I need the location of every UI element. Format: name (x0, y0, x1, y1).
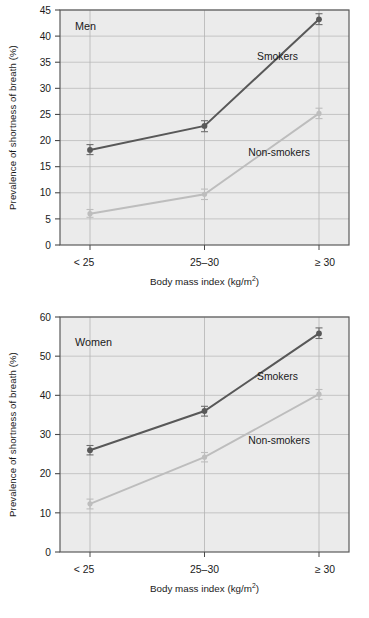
y-tick-label: 10 (40, 508, 52, 519)
y-tick-label: 10 (40, 187, 52, 198)
y-tick-label: 50 (40, 351, 52, 362)
series-annotation-smokers: Smokers (257, 371, 298, 382)
y-tick-label: 45 (40, 5, 52, 16)
x-axis-ticks (90, 552, 319, 557)
y-tick-label: 25 (40, 109, 52, 120)
x-axis-title-main: Body mass index (kg/m (150, 276, 252, 287)
x-axis-title-tail: ) (256, 276, 259, 287)
x-axis-title: Body mass index (kg/m2) (150, 275, 259, 287)
chart-panel-men: 0 5 10 15 20 25 30 35 40 45 Prevalence o… (0, 0, 369, 305)
x-category-label: 25–30 (190, 257, 219, 268)
y-axis-ticks (55, 10, 60, 245)
y-tick-label: 40 (40, 390, 52, 401)
x-axis-title: Body mass index (kg/m2) (150, 582, 259, 594)
x-category-label: < 25 (74, 564, 95, 575)
series-annotation-non-smokers: Non-smokers (248, 147, 310, 158)
chart-panel-women: 0 10 20 30 40 50 60 Prevalence of shortn… (0, 305, 369, 618)
x-category-label: ≥ 30 (315, 564, 335, 575)
x-axis-category-labels: < 25 25–30 ≥ 30 (74, 257, 336, 268)
y-axis-title: Prevalence of shortness of breath (%) (7, 352, 18, 517)
x-category-label: 25–30 (190, 564, 219, 575)
x-category-label: ≥ 30 (315, 257, 335, 268)
y-tick-label: 40 (40, 31, 52, 42)
series-annotation-smokers: Smokers (257, 51, 298, 62)
y-tick-label: 0 (45, 547, 51, 558)
y-axis-tick-labels: 0 5 10 15 20 25 30 35 40 45 (40, 5, 52, 251)
y-tick-label: 20 (40, 135, 52, 146)
x-axis-title-tail: ) (256, 583, 259, 594)
x-axis-title-main: Body mass index (kg/m (150, 583, 252, 594)
y-tick-label: 0 (45, 240, 51, 251)
y-tick-label: 30 (40, 429, 52, 440)
y-tick-label: 35 (40, 57, 52, 68)
figure-root: 0 5 10 15 20 25 30 35 40 45 Prevalence o… (0, 0, 369, 618)
y-tick-label: 15 (40, 161, 52, 172)
x-category-label: < 25 (74, 257, 95, 268)
panel-title-men: Men (75, 20, 96, 32)
men-chart-svg: 0 5 10 15 20 25 30 35 40 45 Prevalence o… (0, 0, 369, 305)
y-tick-label: 5 (45, 214, 51, 225)
y-axis-tick-labels: 0 10 20 30 40 50 60 (40, 312, 52, 558)
y-tick-label: 30 (40, 83, 52, 94)
series-annotation-non-smokers: Non-smokers (248, 435, 310, 446)
women-chart-svg: 0 10 20 30 40 50 60 Prevalence of shortn… (0, 305, 369, 618)
panel-title-women: Women (75, 336, 112, 348)
y-axis-title: Prevalence of shortness of breath (%) (7, 45, 18, 210)
y-tick-label: 20 (40, 468, 52, 479)
y-tick-label: 60 (40, 312, 52, 323)
x-axis-category-labels: < 25 25–30 ≥ 30 (74, 564, 336, 575)
y-axis-ticks (55, 317, 60, 552)
x-axis-ticks (90, 245, 319, 250)
